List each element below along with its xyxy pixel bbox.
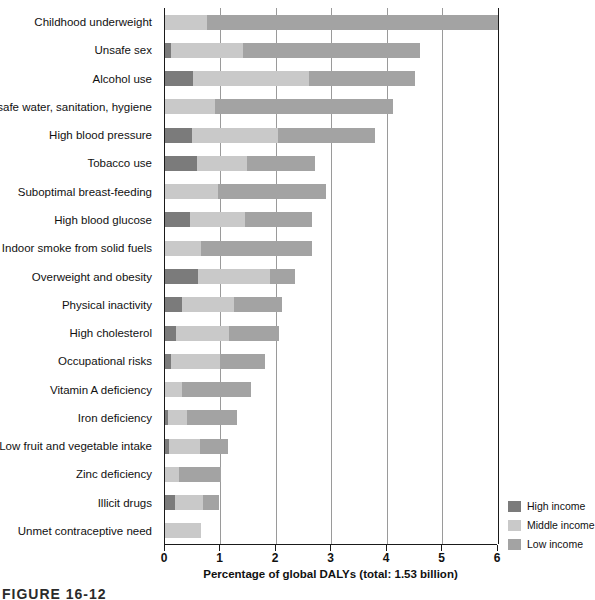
y-axis-label: Childhood underweight: [34, 16, 152, 28]
bar-segment-mid: [182, 297, 235, 312]
bar-segment-high: [165, 269, 198, 284]
y-axis-label: Vitamin A deficiency: [50, 384, 152, 396]
bar-segment-low: [220, 354, 264, 369]
bar-segment-low: [200, 439, 228, 454]
stacked-bar: [165, 269, 295, 284]
x-tick-label-3: 3: [327, 551, 334, 565]
figure-caption: FIGURE 16-12: [2, 586, 107, 600]
bar-segment-mid: [165, 467, 179, 482]
bar-segment-low: [203, 495, 220, 510]
stacked-bar: [165, 71, 415, 86]
stacked-bar: [165, 212, 312, 227]
bar-segment-mid: [193, 71, 310, 86]
bar-row: [165, 241, 497, 256]
bar-segment-low: [309, 71, 414, 86]
y-axis-label: Occupational risks: [58, 355, 152, 367]
y-axis-label: High blood pressure: [49, 129, 152, 141]
bar-row: [165, 382, 497, 397]
bar-segment-low: [245, 212, 312, 227]
bar-segment-mid: [165, 523, 201, 538]
bar-segment-mid: [165, 184, 218, 199]
bar-segment-low: [201, 241, 312, 256]
stacked-bar: [165, 439, 228, 454]
stacked-bar: [165, 241, 312, 256]
y-axis-label: High cholesterol: [70, 327, 152, 339]
legend-item: Middle income: [508, 519, 592, 531]
stacked-bar: [165, 99, 393, 114]
bar-segment-low: [179, 467, 221, 482]
bar-segment-low: [247, 156, 315, 171]
plot-area: [164, 8, 497, 545]
bar-row: [165, 43, 497, 58]
y-axis-label: Illicit drugs: [98, 497, 152, 509]
bar-segment-low: [243, 43, 421, 58]
stacked-bar: [165, 523, 201, 538]
stacked-bar: [165, 354, 265, 369]
bar-row: [165, 297, 497, 312]
bar-segment-high: [165, 212, 190, 227]
stacked-bar: [165, 15, 498, 30]
legend-swatch-high: [508, 501, 521, 512]
legend-item: High income: [508, 500, 592, 512]
bar-segment-low: [215, 99, 393, 114]
legend-label: High income: [527, 500, 585, 512]
stacked-bar: [165, 382, 251, 397]
gridline-6: [498, 8, 499, 544]
y-axis-label: Unmet contraceptive need: [18, 525, 152, 537]
stacked-bar: [165, 495, 219, 510]
bar-segment-low: [207, 15, 498, 30]
y-axis-label: Zinc deficiency: [76, 468, 152, 480]
legend-swatch-mid: [508, 520, 521, 531]
y-axis-label: Overweight and obesity: [32, 271, 152, 283]
y-axis-labels: Childhood underweightUnsafe sexAlcohol u…: [0, 8, 158, 545]
bar-row: [165, 354, 497, 369]
bar-row: [165, 326, 497, 341]
bar-segment-high: [165, 156, 197, 171]
y-axis-label: Alcohol use: [93, 73, 152, 85]
bar-segment-low: [218, 184, 326, 199]
bar-segment-mid: [176, 326, 229, 341]
bar-row: [165, 156, 497, 171]
bar-row: [165, 269, 497, 284]
bar-segment-low: [187, 410, 237, 425]
bar-segment-high: [165, 326, 176, 341]
stacked-bar: [165, 297, 282, 312]
x-tick-label-6: 6: [494, 551, 501, 565]
legend-label: Middle income: [527, 519, 595, 531]
bar-row: [165, 184, 497, 199]
y-axis-label: Indoor smoke from solid fuels: [2, 242, 152, 254]
bar-segment-high: [165, 128, 192, 143]
bar-row: [165, 439, 497, 454]
bar-segment-mid: [190, 212, 246, 227]
y-axis-label: Iron deficiency: [78, 412, 152, 424]
bar-segment-mid: [165, 382, 182, 397]
legend-label: Low income: [527, 538, 583, 550]
y-axis-label: Suboptimal breast-feeding: [18, 186, 152, 198]
bar-segment-mid: [169, 439, 200, 454]
bar-rows: [165, 8, 497, 544]
stacked-bar: [165, 184, 326, 199]
y-axis-label: High blood glucose: [54, 214, 152, 226]
x-tick-label-1: 1: [216, 551, 223, 565]
stacked-bar: [165, 128, 375, 143]
bar-row: [165, 71, 497, 86]
bar-segment-low: [229, 326, 279, 341]
bar-row: [165, 467, 497, 482]
bar-row: [165, 212, 497, 227]
y-axis-label: Low fruit and vegetable intake: [0, 440, 152, 452]
x-tick-label-0: 0: [161, 551, 168, 565]
bar-segment-mid: [171, 43, 243, 58]
bar-row: [165, 523, 497, 538]
legend-item: Low income: [508, 538, 592, 550]
bar-segment-low: [270, 269, 295, 284]
bar-segment-mid: [168, 410, 187, 425]
x-tick-label-5: 5: [438, 551, 445, 565]
x-axis-title: Percentage of global DALYs (total: 1.53 …: [164, 568, 497, 580]
x-tick-label-2: 2: [272, 551, 279, 565]
bar-row: [165, 99, 497, 114]
y-axis-label: Unsafe water, sanitation, hygiene: [0, 101, 152, 113]
bar-segment-mid: [165, 99, 215, 114]
bar-segment-mid: [197, 156, 247, 171]
bar-segment-low: [278, 128, 375, 143]
